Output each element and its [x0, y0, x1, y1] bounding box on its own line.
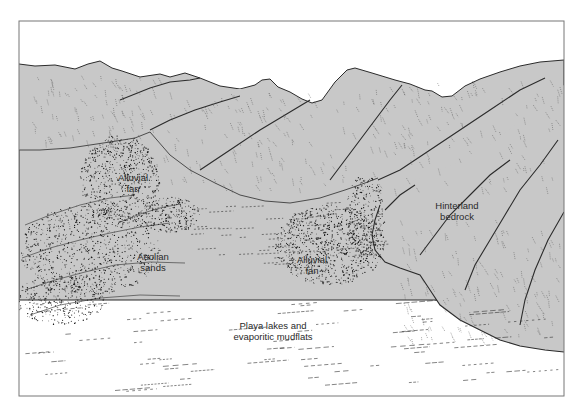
stipple-dot	[338, 216, 339, 217]
stipple-dot	[60, 219, 61, 220]
stipple-dot	[361, 225, 362, 226]
stipple-dot	[49, 226, 50, 227]
stipple-dot	[44, 300, 45, 301]
stipple-dot	[372, 215, 373, 216]
stipple-dot	[29, 227, 30, 228]
stipple-dot	[151, 158, 152, 159]
stipple-dot	[325, 243, 326, 244]
stipple-dot	[105, 163, 106, 164]
stipple-dot	[353, 193, 354, 194]
stipple-dot	[137, 245, 138, 246]
stipple-dot	[155, 195, 156, 196]
stipple-dot	[46, 292, 47, 293]
stipple-dot	[97, 197, 98, 198]
stipple-dot	[102, 292, 103, 293]
stipple-dot	[86, 244, 87, 245]
stipple-dot	[347, 246, 348, 247]
stipple-dot	[306, 223, 307, 224]
stipple-dot	[78, 286, 79, 287]
stipple-dot	[323, 216, 324, 217]
stipple-dot	[102, 296, 103, 297]
stipple-dot	[25, 261, 26, 262]
stipple-dot	[155, 168, 156, 169]
stipple-dot	[116, 260, 117, 261]
stipple-dot	[292, 244, 293, 245]
stipple-dot	[98, 215, 99, 216]
stipple-dot	[64, 264, 65, 265]
stipple-dot	[337, 207, 338, 208]
stipple-dot	[35, 233, 36, 234]
stipple-dot	[71, 287, 72, 288]
stipple-dot	[126, 236, 127, 237]
stipple-dot	[109, 136, 110, 137]
stipple-dot	[325, 224, 326, 225]
stipple-dot	[72, 311, 73, 312]
stipple-dot	[111, 152, 112, 153]
stipple-dot	[57, 255, 58, 256]
stipple-dot	[305, 235, 306, 236]
stipple-dot	[366, 225, 367, 226]
stipple-dot	[166, 227, 167, 228]
stipple-dot	[80, 215, 81, 216]
stipple-dot	[120, 218, 121, 219]
stipple-dot	[72, 291, 73, 292]
stipple-dot	[111, 194, 112, 195]
stipple-dot	[108, 242, 109, 243]
stipple-dot	[100, 296, 101, 297]
stipple-dot	[39, 299, 40, 300]
stipple-dot	[121, 208, 122, 209]
stipple-dot	[366, 220, 367, 221]
stipple-dot	[348, 267, 349, 268]
stipple-dot	[175, 231, 176, 232]
stipple-dot	[27, 283, 28, 284]
stipple-dot	[44, 280, 45, 281]
stipple-dot	[348, 225, 349, 226]
stipple-dot	[130, 156, 131, 157]
stipple-dot	[345, 210, 346, 211]
stipple-dot	[297, 276, 298, 277]
stipple-dot	[29, 259, 30, 260]
stipple-dot	[59, 298, 60, 299]
stipple-dot	[293, 224, 294, 225]
stipple-dot	[173, 201, 174, 202]
stipple-dot	[329, 284, 330, 285]
stipple-dot	[343, 246, 344, 247]
stipple-dot	[365, 186, 366, 187]
stipple-dot	[364, 216, 365, 217]
stipple-dot	[98, 171, 99, 172]
stipple-dot	[52, 273, 53, 274]
stipple-dot	[363, 258, 364, 259]
stipple-dot	[82, 279, 83, 280]
stipple-dot	[333, 239, 334, 240]
stipple-dot	[373, 201, 374, 202]
stipple-dot	[59, 276, 60, 277]
stipple-dot	[39, 254, 40, 255]
stipple-dot	[88, 223, 89, 224]
stipple-dot	[86, 274, 87, 275]
stipple-dot	[62, 239, 63, 240]
stipple-dot	[62, 262, 63, 263]
stipple-dot	[381, 232, 382, 233]
stipple-dot	[327, 250, 328, 251]
stipple-dot	[360, 242, 361, 243]
stipple-dot	[66, 323, 67, 324]
stipple-dot	[57, 295, 58, 296]
stipple-dot	[87, 286, 88, 287]
stipple-dot	[353, 209, 354, 210]
stipple-dot	[159, 198, 160, 199]
stipple-dot	[131, 241, 132, 242]
stipple-dot	[94, 278, 95, 279]
stipple-dot	[100, 171, 101, 172]
stipple-dot	[33, 256, 34, 257]
stipple-dot	[130, 219, 131, 220]
stipple-dot	[111, 262, 112, 263]
stipple-dot	[288, 224, 289, 225]
stipple-dot	[181, 216, 182, 217]
stipple-dot	[310, 215, 311, 216]
stipple-dot	[79, 315, 80, 316]
stipple-dot	[126, 202, 127, 203]
stipple-dot	[82, 191, 83, 192]
stipple-dot	[80, 296, 81, 297]
stipple-dot	[89, 153, 90, 154]
stipple-dot	[52, 243, 53, 244]
